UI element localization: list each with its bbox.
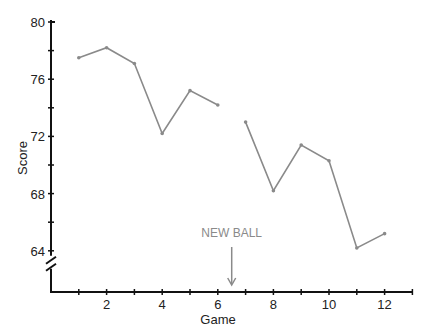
data-point: [327, 159, 331, 163]
data-point: [216, 103, 220, 107]
y-tick-label: 80: [31, 15, 45, 30]
y-tick-label: 76: [31, 72, 45, 87]
x-tick-label: 4: [159, 297, 166, 312]
y-axis: 6468727680: [31, 15, 56, 292]
data-series: [77, 46, 386, 250]
annotation-label: NEW BALL: [201, 226, 262, 240]
series-line: [246, 122, 385, 248]
axis-break-mark: [46, 257, 56, 264]
x-tick-label: 2: [103, 297, 110, 312]
data-point: [77, 56, 81, 60]
data-point: [133, 62, 137, 66]
line-chart: 6468727680 24681012 Score Game NEW BALL: [0, 0, 426, 336]
data-point: [105, 46, 109, 50]
x-axis: 24681012: [50, 289, 412, 312]
y-axis-title: Score: [15, 141, 30, 175]
x-axis-title: Game: [200, 312, 235, 327]
x-tick-label: 10: [322, 297, 336, 312]
x-tick-label: 12: [377, 297, 391, 312]
x-tick-label: 8: [270, 297, 277, 312]
y-tick-label: 72: [31, 129, 45, 144]
data-point: [355, 246, 359, 250]
data-point: [299, 143, 303, 147]
new-ball-annotation: NEW BALL: [201, 226, 262, 285]
y-tick-label: 64: [31, 244, 45, 259]
series-line: [79, 48, 218, 134]
x-tick-label: 6: [214, 297, 221, 312]
data-point: [272, 189, 276, 193]
data-point: [244, 120, 248, 124]
data-point: [383, 232, 387, 236]
y-tick-label: 68: [31, 187, 45, 202]
data-point: [188, 89, 192, 93]
data-point: [160, 132, 164, 136]
